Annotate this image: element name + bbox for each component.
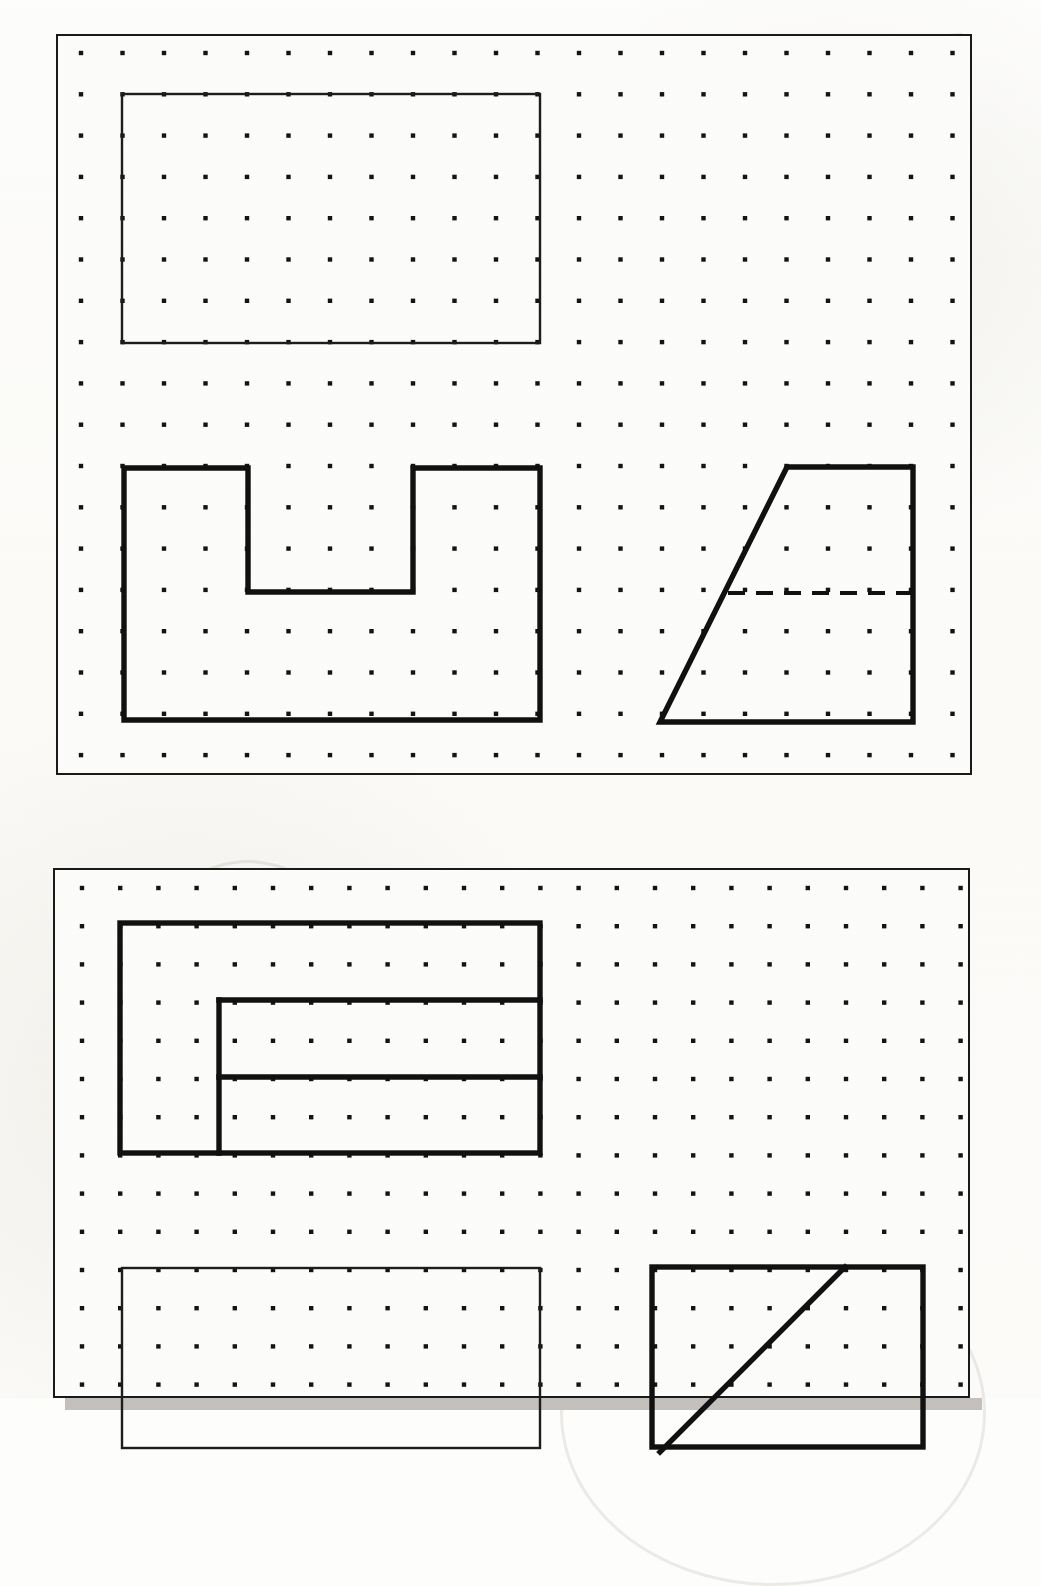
grid-dot	[958, 1115, 962, 1119]
grid-dot	[162, 629, 166, 633]
grid-dot	[615, 1153, 619, 1157]
grid-dot	[245, 51, 249, 55]
grid-dot	[882, 1039, 886, 1043]
grid-dot	[369, 753, 373, 757]
grid-dot	[309, 1306, 313, 1310]
grid-dot	[743, 51, 747, 55]
grid-dot	[618, 753, 622, 757]
grid-dot	[743, 670, 747, 674]
grid-dot	[653, 1191, 657, 1195]
grid-dot	[660, 381, 664, 385]
grid-dot	[385, 1115, 389, 1119]
grid-dot	[452, 629, 456, 633]
grid-dot	[691, 1153, 695, 1157]
grid-dot	[806, 886, 810, 890]
grid-dot	[156, 1115, 160, 1119]
grid-dot	[701, 299, 705, 303]
grid-dot	[411, 133, 415, 137]
dot-grid	[79, 51, 955, 758]
grid-dot	[500, 1039, 504, 1043]
grid-dot	[233, 1230, 237, 1234]
grid-dot	[653, 886, 657, 890]
upper-worksheet-panel	[56, 34, 972, 775]
grid-dot	[729, 924, 733, 928]
grid-dot	[424, 1344, 428, 1348]
grid-dot	[909, 133, 913, 137]
grid-dot	[950, 464, 954, 468]
grid-dot	[660, 629, 664, 633]
grid-dot	[233, 1344, 237, 1348]
grid-dot	[79, 464, 83, 468]
grid-dot	[162, 51, 166, 55]
grid-dot	[233, 1039, 237, 1043]
grid-dot	[286, 505, 290, 509]
grid-dot	[79, 257, 83, 261]
grid-dot	[462, 1039, 466, 1043]
grid-dot	[844, 1382, 848, 1386]
grid-dot	[245, 257, 249, 261]
grid-dot	[271, 886, 275, 890]
grid-dot	[882, 1306, 886, 1310]
grid-dot	[882, 1230, 886, 1234]
grid-dot	[118, 1191, 122, 1195]
grid-dot	[615, 1344, 619, 1348]
grid-dot	[245, 423, 249, 427]
grid-dot	[615, 1306, 619, 1310]
grid-dot	[494, 257, 498, 261]
grid-dot	[424, 1306, 428, 1310]
grid-dot	[618, 712, 622, 716]
grid-dot	[424, 1382, 428, 1386]
grid-dot	[882, 1191, 886, 1195]
grid-dot	[920, 1077, 924, 1081]
grid-dot	[120, 753, 124, 757]
grid-dot	[701, 257, 705, 261]
grid-dot	[194, 1191, 198, 1195]
grid-dot	[920, 962, 924, 966]
grid-dot	[494, 423, 498, 427]
grid-dot	[156, 1306, 160, 1310]
grid-dot	[743, 340, 747, 344]
grid-dot	[618, 588, 622, 592]
grid-dot	[618, 299, 622, 303]
grid-dot	[691, 1344, 695, 1348]
grid-dot	[729, 1344, 733, 1348]
grid-dot	[271, 1230, 275, 1234]
grid-dot	[743, 381, 747, 385]
grid-dot	[920, 1230, 924, 1234]
grid-dot	[826, 753, 830, 757]
grid-dot	[245, 712, 249, 716]
grid-dot	[271, 1382, 275, 1386]
grid-dot	[767, 1230, 771, 1234]
grid-dot	[452, 175, 456, 179]
grid-dot	[245, 175, 249, 179]
grid-dot	[577, 670, 581, 674]
grid-dot	[767, 1382, 771, 1386]
grid-dot	[867, 629, 871, 633]
grid-dot	[233, 1382, 237, 1386]
grid-dot	[844, 962, 848, 966]
grid-dot	[615, 1230, 619, 1234]
grid-dot	[958, 1230, 962, 1234]
grid-dot	[826, 175, 830, 179]
grid-dot	[411, 216, 415, 220]
grid-dot	[660, 753, 664, 757]
grid-dot	[369, 299, 373, 303]
grid-dot	[618, 546, 622, 550]
grid-dot	[920, 1153, 924, 1157]
grid-dot	[576, 924, 580, 928]
grid-dot	[784, 629, 788, 633]
grid-dot	[494, 588, 498, 592]
grid-dot	[271, 1039, 275, 1043]
grid-dot	[462, 1115, 466, 1119]
grid-dot	[309, 1191, 313, 1195]
grid-dot	[286, 670, 290, 674]
grid-dot	[233, 1306, 237, 1310]
grid-dot	[369, 629, 373, 633]
grid-dot	[576, 1344, 580, 1348]
grid-dot	[653, 1077, 657, 1081]
grid-dot	[958, 1077, 962, 1081]
grid-dot	[660, 92, 664, 96]
grid-dot	[743, 175, 747, 179]
grid-dot	[328, 712, 332, 716]
grid-dot	[156, 962, 160, 966]
